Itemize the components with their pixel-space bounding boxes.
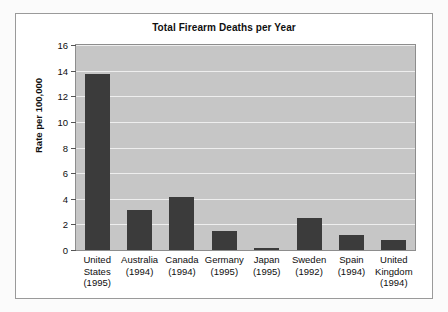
chart-title: Total Firearm Deaths per Year <box>16 22 432 33</box>
y-axis-tick <box>71 71 76 72</box>
y-axis-tick-label: 0 <box>63 245 68 256</box>
gridline <box>76 148 415 149</box>
y-axis-tick <box>71 96 76 97</box>
x-axis-labels: UnitedStates(1995)Australia(1994)Canada(… <box>75 254 416 300</box>
x-axis-label: UnitedStates(1995) <box>76 254 118 289</box>
y-axis-tick <box>71 199 76 200</box>
plot-area: 0246810121416 <box>75 44 416 251</box>
bar <box>212 231 237 250</box>
gridline <box>76 45 415 46</box>
gridline <box>76 122 415 123</box>
chart-card: Total Firearm Deaths per Year Rate per 1… <box>15 13 433 299</box>
bar <box>381 240 406 250</box>
x-axis-label: Japan(1995) <box>246 254 288 277</box>
x-axis-label: Germany(1995) <box>203 254 245 277</box>
y-axis-tick-label: 14 <box>57 66 68 77</box>
y-axis-tick <box>71 45 76 46</box>
y-axis-tick-label: 8 <box>63 143 68 154</box>
y-axis-tick <box>71 224 76 225</box>
chart-page: Total Firearm Deaths per Year Rate per 1… <box>0 0 448 312</box>
y-axis-tick-label: 12 <box>57 91 68 102</box>
bar <box>169 197 194 250</box>
y-axis-tick-label: 2 <box>63 219 68 230</box>
bar <box>297 218 322 250</box>
x-axis-label: Australia(1994) <box>118 254 160 277</box>
y-axis-tick-label: 16 <box>57 40 68 51</box>
gridline <box>76 199 415 200</box>
y-axis-tick <box>71 173 76 174</box>
x-axis-label: UnitedKingdom(1994) <box>373 254 415 289</box>
gridline <box>76 71 415 72</box>
x-axis-label: Canada(1994) <box>161 254 203 277</box>
gridline <box>76 96 415 97</box>
y-axis-tick <box>71 122 76 123</box>
plot-inner: 0246810121416 <box>76 45 415 250</box>
x-axis-label: Spain(1994) <box>330 254 372 277</box>
y-axis-tick <box>71 148 76 149</box>
y-axis-tick-label: 10 <box>57 117 68 128</box>
y-axis-tick-label: 6 <box>63 168 68 179</box>
gridline <box>76 173 415 174</box>
bar <box>254 248 279 250</box>
y-axis-tick <box>71 250 76 251</box>
bar <box>85 74 110 250</box>
x-axis-label: Sweden(1992) <box>288 254 330 277</box>
bar <box>339 235 364 250</box>
y-axis-title: Rate per 100,000 <box>33 56 44 176</box>
y-axis-tick-label: 4 <box>63 194 68 205</box>
bar <box>127 210 152 250</box>
